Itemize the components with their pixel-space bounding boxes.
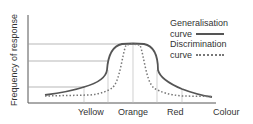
solid-line-swatch-icon [196, 33, 224, 35]
legend-discrimination-title: Discrimination [170, 39, 228, 50]
x-tick-orange: Orange [118, 108, 148, 117]
legend-discrimination-row: curve [170, 50, 228, 61]
legend-discrimination-label: curve [170, 50, 192, 61]
x-tick-yellow: Yellow [78, 108, 104, 117]
x-axis-label: Colour [213, 108, 240, 117]
legend-generalisation-row: curve [170, 29, 228, 40]
legend-generalisation-label: curve [170, 29, 192, 40]
y-axis-label: Frequency of response [9, 10, 19, 110]
legend-generalisation-title: Generalisation [170, 18, 228, 29]
legend: Generalisation curve Discrimination curv… [170, 18, 228, 60]
x-tick-red: Red [167, 108, 184, 117]
dotted-line-swatch-icon [196, 54, 224, 56]
